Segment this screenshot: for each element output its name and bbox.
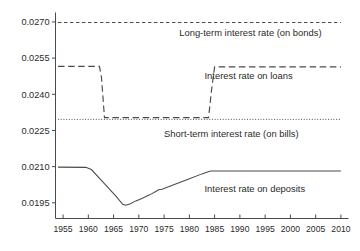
y-tick-label: 0.0240 [21, 90, 49, 100]
series-label-long-term-interest-rate-on-bonds: Long-term interest rate (on bonds) [179, 27, 321, 38]
series-label-short-term-interest-rate-on-bills: Short-term interest rate (on bills) [164, 128, 298, 139]
x-tick-label: 2000 [281, 224, 300, 234]
x-tick-label: 1990 [230, 224, 249, 234]
data-series-group [58, 22, 341, 205]
y-axis-tickmarks [52, 22, 56, 203]
x-tick-label: 1955 [54, 224, 73, 234]
series-line-interest-rate-on-loans [58, 66, 341, 117]
x-tick-label: 2010 [331, 224, 350, 234]
x-tick-label: 1995 [256, 224, 275, 234]
y-tick-label: 0.0225 [21, 126, 49, 136]
x-tick-label: 1975 [155, 224, 174, 234]
y-axis-tick-labels: 0.01950.02100.02250.02400.02550.0270 [21, 17, 49, 208]
x-tick-label: 2005 [306, 224, 325, 234]
chart-canvas: 0.01950.02100.02250.02400.02550.0270 195… [0, 0, 360, 251]
series-label-interest-rate-on-deposits: Interest rate on deposits [205, 183, 306, 194]
x-tick-label: 1970 [129, 224, 148, 234]
x-axis-tickmarks [63, 215, 341, 219]
interest-rates-line-chart: 0.01950.02100.02250.02400.02550.0270 195… [0, 0, 360, 251]
x-tick-label: 1980 [180, 224, 199, 234]
series-annotations-group: Long-term interest rate (on bonds)Intere… [164, 27, 321, 194]
x-tick-label: 1960 [79, 224, 98, 234]
series-label-interest-rate-on-loans: Interest rate on loans [205, 70, 293, 81]
x-axis-tick-labels: 1955196019651970197519801985199019952000… [54, 224, 351, 234]
x-tick-label: 1985 [205, 224, 224, 234]
y-tick-label: 0.0255 [21, 53, 49, 63]
y-tick-label: 0.0210 [21, 162, 49, 172]
x-tick-label: 1965 [104, 224, 123, 234]
y-tick-label: 0.0270 [21, 17, 49, 27]
y-tick-label: 0.0195 [21, 198, 49, 208]
